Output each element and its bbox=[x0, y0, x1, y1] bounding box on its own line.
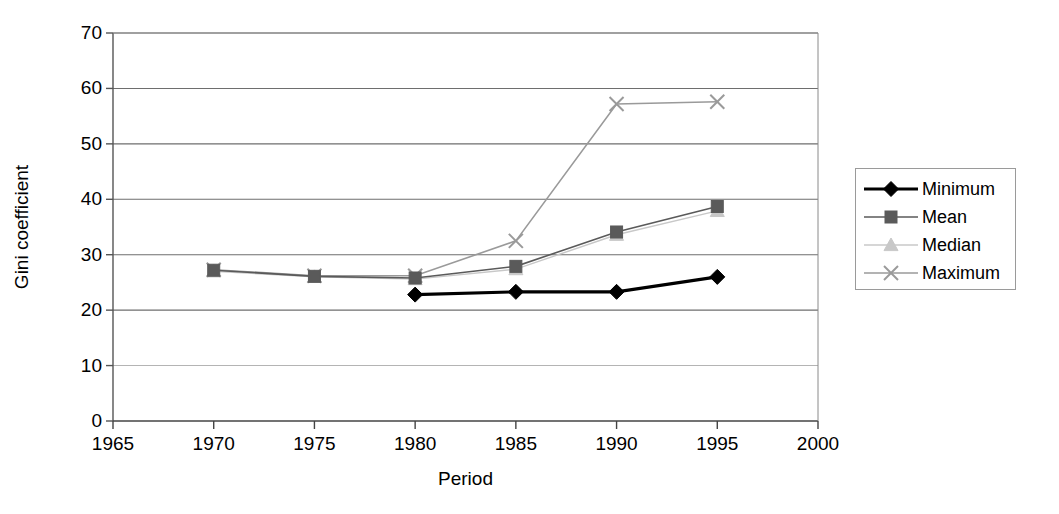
marker-square bbox=[611, 226, 623, 238]
legend-label: Maximum bbox=[922, 264, 1000, 282]
legend-item-maximum[interactable]: Maximum bbox=[856, 259, 1017, 287]
marker-diamond bbox=[408, 287, 423, 302]
y-tick-label: 60 bbox=[58, 78, 102, 97]
data-point-x bbox=[509, 234, 523, 248]
marker-diamond bbox=[710, 269, 725, 284]
y-tick-label: 20 bbox=[58, 300, 102, 319]
y-tick-label: 70 bbox=[58, 23, 102, 42]
marker-square bbox=[711, 200, 723, 212]
x-tick-label: 1980 bbox=[394, 434, 436, 453]
marker-diamond bbox=[508, 284, 523, 299]
marker-square bbox=[208, 264, 220, 276]
y-tick-label: 50 bbox=[58, 134, 102, 153]
legend-label: Mean bbox=[922, 208, 967, 226]
legend-item-mean[interactable]: Mean bbox=[856, 203, 1017, 231]
marker-square bbox=[885, 211, 897, 223]
legend: MinimumMeanMedianMaximum bbox=[855, 168, 1016, 290]
x-tick-label: 1965 bbox=[92, 434, 134, 453]
series-minimum bbox=[408, 269, 725, 302]
x-tick-label: 1970 bbox=[193, 434, 235, 453]
marker-square bbox=[510, 260, 522, 272]
legend-swatch-minimum bbox=[862, 177, 920, 201]
x-tick-label: 1985 bbox=[495, 434, 537, 453]
data-point-square bbox=[308, 270, 320, 282]
data-point-diamond bbox=[508, 284, 523, 299]
y-tick-label: 40 bbox=[58, 189, 102, 208]
legend-item-median[interactable]: Median bbox=[856, 231, 1017, 259]
legend-swatch-mean bbox=[862, 205, 920, 229]
x-tick-label: 1995 bbox=[696, 434, 738, 453]
legend-swatch-maximum bbox=[862, 261, 920, 285]
series-line bbox=[214, 206, 718, 278]
gridlines bbox=[113, 33, 818, 366]
data-point-square bbox=[510, 260, 522, 272]
chart-figure: 0102030405060701965197019751980198519901… bbox=[0, 0, 1059, 514]
legend-marker-icon bbox=[862, 205, 920, 229]
data-point-square bbox=[885, 211, 897, 223]
x-axis-title: Period bbox=[113, 468, 818, 490]
data-point-square bbox=[409, 272, 421, 284]
axis-ticks bbox=[106, 33, 818, 429]
data-point-diamond bbox=[884, 182, 899, 197]
data-point-square bbox=[711, 200, 723, 212]
data-point-square bbox=[208, 264, 220, 276]
series-line bbox=[214, 211, 718, 279]
x-tick-label: 1975 bbox=[293, 434, 335, 453]
legend-marker-icon bbox=[862, 177, 920, 201]
legend-marker-icon bbox=[862, 261, 920, 285]
legend-item-minimum[interactable]: Minimum bbox=[856, 175, 1017, 203]
marker-square bbox=[409, 272, 421, 284]
legend-label: Median bbox=[922, 236, 981, 254]
x-tick-label: 2000 bbox=[797, 434, 839, 453]
legend-marker-icon bbox=[862, 233, 920, 257]
legend-swatch-median bbox=[862, 233, 920, 257]
y-tick-label: 30 bbox=[58, 245, 102, 264]
marker-diamond bbox=[884, 182, 899, 197]
y-axis-title: Gini coefficient bbox=[5, 33, 39, 421]
y-tick-label: 0 bbox=[58, 411, 102, 430]
series-mean bbox=[208, 200, 724, 284]
data-point-diamond bbox=[609, 284, 624, 299]
marker-diamond bbox=[609, 284, 624, 299]
data-point-diamond bbox=[710, 269, 725, 284]
x-tick-label: 1990 bbox=[595, 434, 637, 453]
series-line bbox=[415, 277, 717, 295]
data-point-diamond bbox=[408, 287, 423, 302]
series-line bbox=[214, 102, 718, 276]
marker-square bbox=[308, 270, 320, 282]
y-tick-label: 10 bbox=[58, 356, 102, 375]
data-point-square bbox=[611, 226, 623, 238]
legend-label: Minimum bbox=[922, 180, 995, 198]
